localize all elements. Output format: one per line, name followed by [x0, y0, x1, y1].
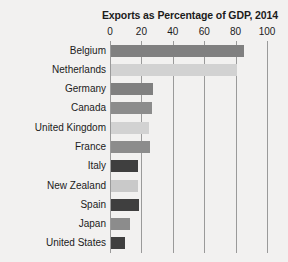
exports-gdp-bar-chart: Exports as Percentage of GDP, 2014 02040…: [0, 0, 288, 262]
category-label-italy: Italy: [0, 160, 106, 171]
bar-united-kingdom: [111, 122, 149, 134]
bar-united-states: [111, 237, 125, 249]
category-label-belgium: Belgium: [0, 45, 106, 56]
x-tick-label-0: 0: [107, 26, 113, 37]
bar-netherlands: [111, 64, 237, 76]
category-label-germany: Germany: [0, 83, 106, 94]
x-tick-label-100: 100: [259, 26, 276, 37]
bar-new-zealand: [111, 180, 138, 192]
category-label-united-states: United States: [0, 237, 106, 248]
bar-japan: [111, 218, 130, 230]
bar-belgium: [111, 45, 244, 57]
chart-title: Exports as Percentage of GDP, 2014: [96, 9, 284, 21]
bar-spain: [111, 199, 139, 211]
x-tick-label-80: 80: [230, 26, 241, 37]
bar-italy: [111, 160, 138, 172]
y-axis-category-labels: BelgiumNetherlandsGermanyCanadaUnited Ki…: [0, 41, 106, 253]
bar-france: [111, 141, 150, 153]
bar-canada: [111, 102, 152, 114]
category-label-new-zealand: New Zealand: [0, 180, 106, 191]
x-tick-label-40: 40: [167, 26, 178, 37]
category-label-canada: Canada: [0, 102, 106, 113]
category-label-united-kingdom: United Kingdom: [0, 122, 106, 133]
bar-germany: [111, 83, 153, 95]
x-tick-label-60: 60: [199, 26, 210, 37]
category-label-japan: Japan: [0, 218, 106, 229]
x-tick-label-20: 20: [136, 26, 147, 37]
x-axis-tick-labels: 020406080100: [110, 26, 267, 39]
bars-layer: [111, 41, 268, 253]
category-label-france: France: [0, 141, 106, 152]
category-label-netherlands: Netherlands: [0, 64, 106, 75]
category-label-spain: Spain: [0, 199, 106, 210]
